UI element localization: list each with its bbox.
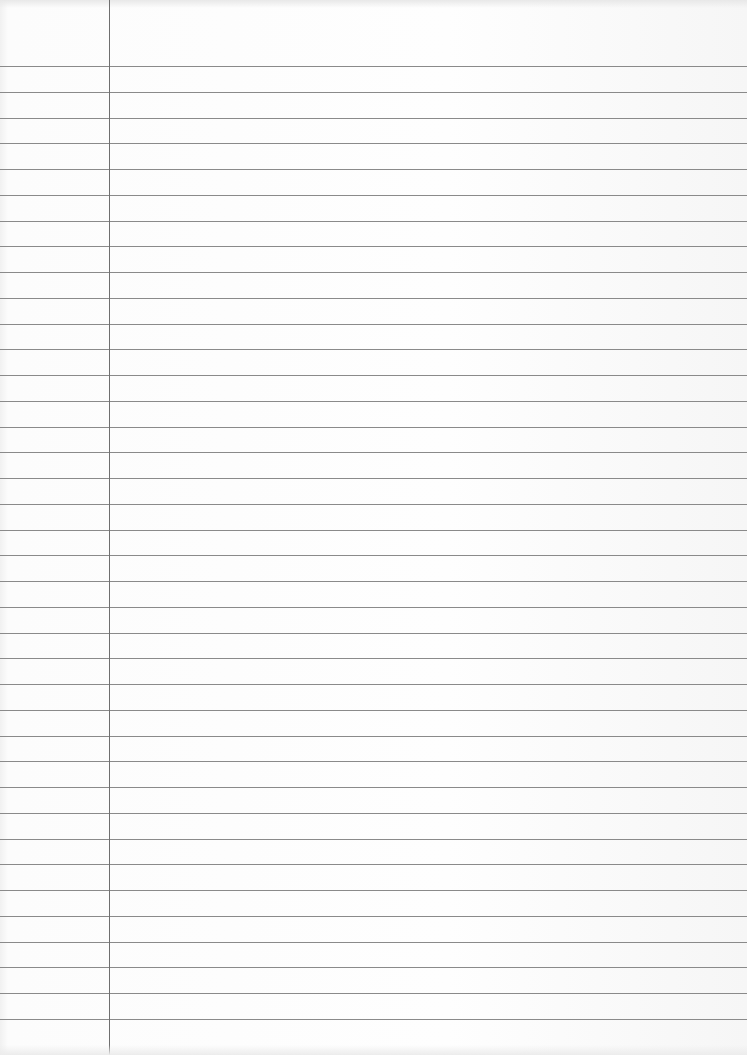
margin-line [109,0,110,1055]
ruled-line [0,298,747,299]
ruled-line [0,66,747,67]
ruled-line [0,195,747,196]
ruled-line [0,272,747,273]
ruled-line [0,761,747,762]
ruled-line [0,143,747,144]
ruled-line [0,736,747,737]
ruled-line [0,993,747,994]
ruled-line [0,349,747,350]
ruled-line [0,684,747,685]
ruled-line [0,169,747,170]
ruled-line [0,555,747,556]
ruled-line [0,118,747,119]
ruled-line [0,890,747,891]
ruled-line [0,607,747,608]
ruled-line [0,452,747,453]
ruled-line [0,427,747,428]
top-edge-shadow [0,0,747,8]
ruled-line [0,92,747,93]
bottom-edge-shadow [0,1045,747,1055]
ruled-line [0,942,747,943]
ruled-line [0,221,747,222]
ruled-line [0,658,747,659]
ruled-line [0,581,747,582]
ruled-line [0,633,747,634]
ruled-line [0,246,747,247]
ruled-line [0,916,747,917]
ruled-line [0,478,747,479]
ruled-line [0,324,747,325]
ruled-line [0,787,747,788]
lined-paper-sheet [0,0,747,1055]
ruled-line [0,839,747,840]
ruled-line [0,530,747,531]
ruled-line [0,710,747,711]
ruled-line [0,864,747,865]
ruled-line [0,401,747,402]
ruled-line [0,813,747,814]
ruled-line [0,375,747,376]
ruled-line [0,504,747,505]
ruled-line [0,967,747,968]
ruled-line [0,1019,747,1020]
